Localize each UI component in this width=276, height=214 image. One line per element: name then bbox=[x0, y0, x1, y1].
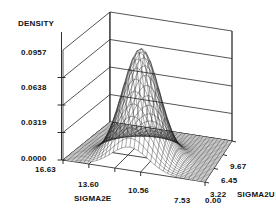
surface-plot-figure: DENSITY 0.0957 0.0638 0.0319 0.0000 16.6… bbox=[0, 0, 276, 214]
x-tick-label-2: 10.56 bbox=[128, 186, 149, 195]
z-tick-label-3: 0.0957 bbox=[21, 48, 47, 57]
y-tick-label-3: 9.67 bbox=[230, 162, 246, 171]
y-tickmark bbox=[223, 155, 227, 156]
x-tick-label-0: 16.63 bbox=[35, 165, 56, 174]
z-tick-label-0: 0.0000 bbox=[21, 154, 47, 163]
y-tickmark bbox=[214, 168, 218, 169]
z-tick-label-2: 0.0638 bbox=[21, 83, 47, 92]
x-tick-label-1: 13.60 bbox=[78, 180, 99, 189]
x-axis-title: SIGMA2E bbox=[74, 194, 111, 203]
y-tickmark bbox=[232, 141, 236, 142]
y-tick-label-2: 6.45 bbox=[221, 176, 237, 185]
y-tick-label-1: 3.22 bbox=[210, 190, 226, 199]
y-axis-title: SIGMA2U bbox=[237, 190, 275, 199]
y-tickmark bbox=[205, 182, 209, 183]
z-tick-label-1: 0.0319 bbox=[21, 118, 47, 127]
x-tick-label-3: 7.53 bbox=[174, 196, 190, 205]
z-axis-title: DENSITY bbox=[18, 19, 54, 28]
